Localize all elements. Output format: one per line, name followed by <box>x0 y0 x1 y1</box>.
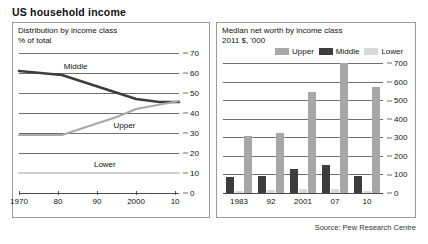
legend-item-lower: Lower <box>364 47 403 56</box>
panel-distribution: Distribution by income class % of total … <box>12 22 210 218</box>
x-axis-tick: 1983 <box>230 197 248 206</box>
y-axis-tick: 10 <box>183 169 199 178</box>
y-axis-tick: 300 <box>387 133 407 142</box>
y-axis-tick: 60 <box>183 69 199 78</box>
x-tickmark <box>97 191 98 195</box>
left-panel-title: Distribution by income class <box>18 26 117 35</box>
legend-item-middle: Middle <box>319 47 360 56</box>
bar-upper-1983 <box>244 136 252 193</box>
y-axis-tick: 30 <box>183 129 199 138</box>
x-tickmark <box>58 191 59 195</box>
y-axis-tick: 0 <box>387 189 398 198</box>
left-panel-subtitle: % of total <box>18 36 117 46</box>
bar-lower-2001 <box>299 189 307 193</box>
x-tickmark <box>136 191 137 195</box>
bar-upper-10 <box>372 87 380 193</box>
bar-middle-10 <box>354 176 362 193</box>
right-panel-title: Median net worth by income class <box>222 26 343 35</box>
y-axis-tick: 50 <box>183 89 199 98</box>
bar-middle-1983 <box>226 177 234 193</box>
line-series-group <box>19 53 179 193</box>
x-axis-tick: 2000 <box>127 197 145 206</box>
y-axis-tick: 700 <box>387 59 407 68</box>
bar-lower-92 <box>267 190 275 193</box>
bar-lower-07 <box>331 189 339 193</box>
panel-networth: Median net worth by income class 2011 $,… <box>216 22 416 218</box>
x-axis-tick: 80 <box>54 197 63 206</box>
y-axis-tick: 400 <box>387 114 407 123</box>
y-axis-tick: 600 <box>387 77 407 86</box>
series-label-lower: Lower <box>94 160 116 169</box>
gridline <box>223 119 383 120</box>
gridline <box>223 100 383 101</box>
page-title: US household income <box>12 6 126 18</box>
right-panel-subtitle: 2011 $, '000 <box>222 36 343 46</box>
source-note: Source: Pew Research Centre <box>315 223 416 232</box>
legend-swatch-middle <box>319 48 333 55</box>
x-axis-tick: 2001 <box>294 197 312 206</box>
right-panel-header: Median net worth by income class 2011 $,… <box>222 26 343 46</box>
x-tickmark <box>19 191 20 195</box>
bar-upper-92 <box>276 133 284 193</box>
bar-chart-plot: 0100200300400500600700 <box>223 63 383 193</box>
bar-upper-2001 <box>308 92 316 193</box>
series-label-middle: Middle <box>64 62 88 71</box>
y-axis-tick: 200 <box>387 151 407 160</box>
y-axis-tick: 0 <box>183 189 194 198</box>
x-axis-tick: 10 <box>363 197 372 206</box>
x-axis-tick: 90 <box>93 197 102 206</box>
y-axis-tick: 100 <box>387 170 407 179</box>
legend-label-lower: Lower <box>381 47 403 56</box>
legend-item-upper: Upper <box>275 47 314 56</box>
x-axis-tick: 07 <box>331 197 340 206</box>
x-tickmark <box>175 191 176 195</box>
bar-middle-2001 <box>290 169 298 193</box>
bar-chart-legend: UpperMiddleLower <box>275 47 403 56</box>
gridline <box>223 63 383 64</box>
legend-swatch-upper <box>275 48 289 55</box>
bar-lower-10 <box>363 191 371 193</box>
x-axis-tick: 10 <box>171 197 180 206</box>
line-series-middle <box>19 71 179 102</box>
y-axis-tick: 40 <box>183 109 199 118</box>
line-series-upper <box>19 101 179 135</box>
gridline <box>223 193 383 194</box>
y-axis-tick: 20 <box>183 149 199 158</box>
legend-label-middle: Middle <box>336 47 360 56</box>
y-axis-tick: 70 <box>183 49 199 58</box>
line-chart-plot: 010203040506070MiddleUpperLower <box>19 53 179 193</box>
left-panel-header: Distribution by income class % of total <box>18 26 117 46</box>
gridline <box>223 82 383 83</box>
gridline <box>19 193 179 194</box>
legend-swatch-lower <box>364 48 378 55</box>
infographic-root: US household income Distribution by inco… <box>0 0 428 244</box>
bar-middle-92 <box>258 176 266 193</box>
series-label-upper: Upper <box>113 121 135 130</box>
legend-label-upper: Upper <box>292 47 314 56</box>
bar-middle-07 <box>322 165 330 193</box>
x-axis-tick: 92 <box>267 197 276 206</box>
bar-upper-07 <box>340 63 348 193</box>
y-axis-tick: 500 <box>387 96 407 105</box>
bar-lower-1983 <box>235 191 243 193</box>
x-axis-tick: 1970 <box>10 197 28 206</box>
